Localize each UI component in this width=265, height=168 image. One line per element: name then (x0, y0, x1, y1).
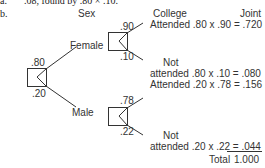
outcome-row-4-value: .044 (241, 141, 260, 152)
prob-female-not: .10 (120, 52, 134, 62)
branch-female: Female (70, 41, 103, 51)
total-value: 1.000 (234, 155, 259, 165)
prob-male: .20 (32, 89, 46, 99)
outcome-row-4: attended .20 x .22 = .044 (150, 142, 261, 152)
prob-female-attended: .90 (120, 22, 134, 32)
outcome-row-1: Attended .80 x .90 = .720 (150, 20, 262, 30)
outcome-row-4-line1: Not (163, 131, 179, 141)
outcome-row-2: attended .80 x .10 = .080 (150, 69, 261, 79)
outcome-row-2-line1: Not (163, 58, 179, 68)
header-college: College (153, 9, 187, 19)
outcome-row-3: Attended .20 x .78 = .156 (150, 80, 262, 90)
branch-male: Male (72, 108, 94, 118)
prob-male-attended: .78 (120, 96, 134, 106)
part-a-text: .08, found by .80 × .10. (24, 0, 118, 6)
outcome-row-4-text: attended .20 x .22 = (150, 141, 241, 152)
prob-female: .80 (31, 58, 45, 68)
total-label: Total (209, 155, 230, 165)
header-joint: Joint (240, 9, 261, 19)
part-a-label: a. (0, 0, 7, 6)
prob-male-not: .22 (120, 127, 134, 137)
part-b-label: b. (0, 9, 8, 19)
header-sex: Sex (78, 9, 95, 19)
